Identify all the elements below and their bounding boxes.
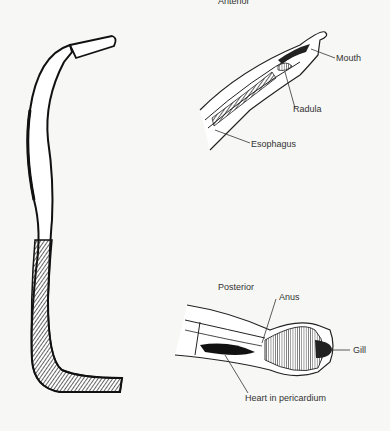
anterior-illustration — [200, 32, 327, 150]
label-anus: Anus — [279, 292, 300, 302]
label-gill: Gill — [353, 345, 366, 355]
diagram-canvas — [0, 0, 390, 431]
label-esophagus: Esophagus — [251, 139, 296, 149]
label-mouth: Mouth — [336, 53, 361, 63]
anterior-title: Anterior — [218, 0, 250, 6]
label-heart-in-pericardium: Heart in pericardium — [245, 393, 326, 403]
posterior-title: Posterior — [218, 282, 254, 292]
whole-body-illustration — [28, 36, 122, 392]
label-radula: Radula — [293, 104, 322, 114]
posterior-illustration — [175, 305, 333, 376]
